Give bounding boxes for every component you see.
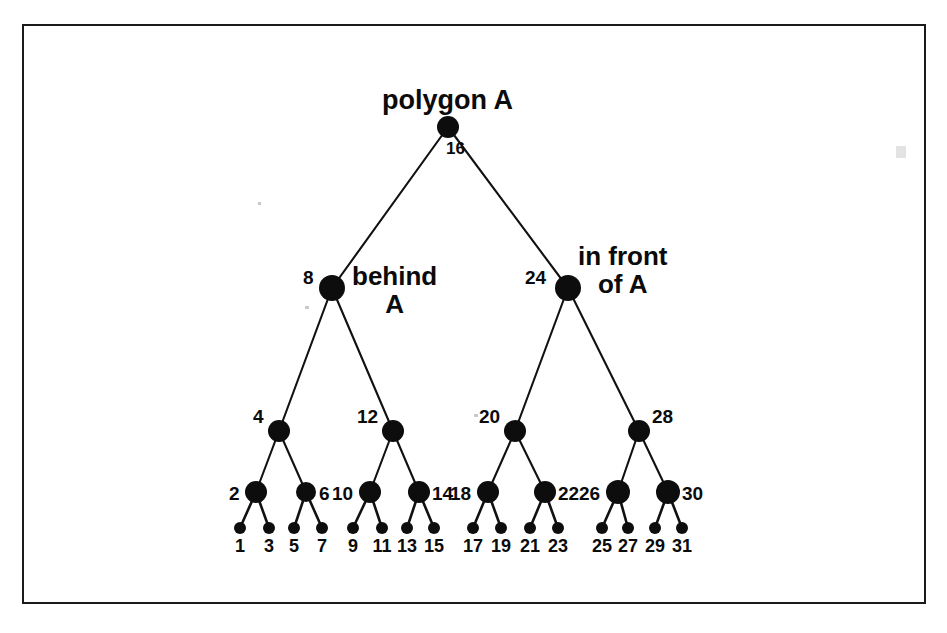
node-number-label: 6	[319, 484, 330, 503]
scan-speck	[305, 306, 309, 309]
node-number-label: 8	[303, 268, 314, 287]
node-number-label: 26	[579, 484, 600, 503]
caption-in-front-of-a: in front of A	[578, 242, 668, 298]
caption-polygon-a: polygon A	[382, 86, 513, 115]
leaf-number-label: 23	[538, 537, 578, 555]
node-number-label: 24	[525, 268, 546, 287]
node-number-label: 20	[479, 407, 500, 426]
caption-behind-a: behind A	[352, 262, 437, 318]
figure-root: 16824412202826101418222630 1357911131517…	[0, 0, 947, 633]
node-number-label: 12	[357, 407, 378, 426]
node-number-label: 30	[682, 484, 703, 503]
node-number-label: 2	[229, 484, 240, 503]
leaf-number-label: 15	[414, 537, 454, 555]
node-number-label: 16	[446, 140, 465, 157]
scan-speck	[474, 414, 478, 417]
node-number-label: 22	[558, 484, 579, 503]
node-number-label: 18	[450, 484, 471, 503]
leaf-number-label: 31	[662, 537, 702, 555]
node-number-label: 28	[652, 407, 673, 426]
node-number-label: 4	[253, 407, 264, 426]
node-number-label: 10	[332, 484, 353, 503]
scan-speck	[258, 202, 261, 205]
scan-speck	[896, 146, 906, 158]
